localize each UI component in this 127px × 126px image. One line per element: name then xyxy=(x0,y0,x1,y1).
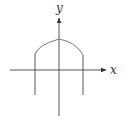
y-axis-label: y xyxy=(55,1,63,15)
x-axis-label: x xyxy=(110,63,117,77)
graph-diagram: y x xyxy=(0,0,127,126)
